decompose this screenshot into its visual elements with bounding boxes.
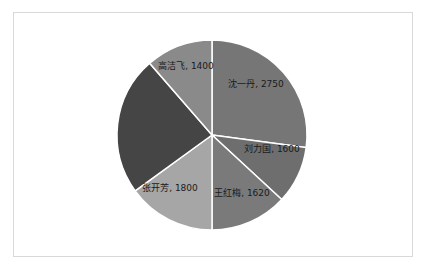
pie-slice bbox=[212, 40, 307, 148]
slice-label: 高洁飞, 1400 bbox=[158, 60, 214, 71]
pie-chart: 沈一丹, 2750刘力国, 1600王红梅, 1620张开芳, 1800高洁飞,… bbox=[0, 0, 426, 270]
slice-label: 张开芳, 1800 bbox=[142, 182, 198, 193]
slice-label: 王红梅, 1620 bbox=[214, 187, 270, 198]
slice-label: 刘力国, 1600 bbox=[244, 143, 300, 154]
slice-label: 沈一丹, 2750 bbox=[228, 78, 284, 89]
